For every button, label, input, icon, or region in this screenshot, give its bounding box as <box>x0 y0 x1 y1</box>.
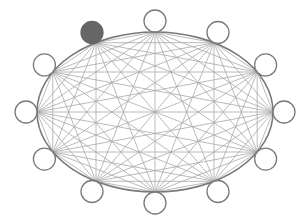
node-1 <box>255 148 277 170</box>
edge-0-11 <box>257 72 273 112</box>
node-10 <box>207 22 229 44</box>
edge-9-11 <box>155 32 257 72</box>
edges-group <box>37 32 273 192</box>
edge-4-11 <box>96 72 257 181</box>
edge-5-6 <box>37 112 53 152</box>
edge-6-8 <box>37 43 96 112</box>
node-5 <box>33 148 55 170</box>
edge-2-7 <box>53 72 214 181</box>
edge-0-1 <box>257 112 273 152</box>
edge-2-3 <box>155 181 214 192</box>
node-4 <box>81 181 103 203</box>
node-0 <box>273 101 295 123</box>
node-3 <box>144 192 166 214</box>
edge-3-4 <box>96 181 155 192</box>
node-7 <box>33 54 55 76</box>
edge-1-8 <box>96 43 257 152</box>
edge-5-10 <box>53 43 214 152</box>
edge-5-9 <box>53 32 155 152</box>
node-9 <box>144 10 166 32</box>
edge-9-10 <box>155 32 214 43</box>
complete-graph-diagram <box>0 0 304 221</box>
edge-7-9 <box>53 32 155 72</box>
edge-8-9 <box>96 32 155 43</box>
edge-6-10 <box>37 43 214 112</box>
node-2 <box>207 181 229 203</box>
node-6 <box>15 101 37 123</box>
edge-3-11 <box>155 72 257 192</box>
edge-6-7 <box>37 72 53 112</box>
node-filled-8 <box>81 22 103 44</box>
node-11 <box>255 54 277 76</box>
